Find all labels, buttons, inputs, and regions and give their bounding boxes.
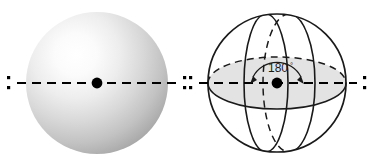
axis-end-marker-left	[7, 76, 10, 89]
center-point	[92, 78, 103, 89]
figure-root: 180 °	[0, 0, 370, 164]
axis-end-marker-right	[363, 76, 366, 89]
wireframe-sphere-panel: 180 °	[189, 14, 366, 152]
axis-end-marker-left	[189, 76, 192, 89]
center-point	[272, 78, 283, 89]
degree-symbol-icon: °	[290, 61, 293, 70]
axis-end-marker-right	[183, 76, 186, 89]
shaded-sphere-panel	[7, 12, 186, 154]
rotation-angle-value: 180	[268, 61, 288, 75]
sphere-rotation-figure: 180 °	[0, 0, 370, 164]
